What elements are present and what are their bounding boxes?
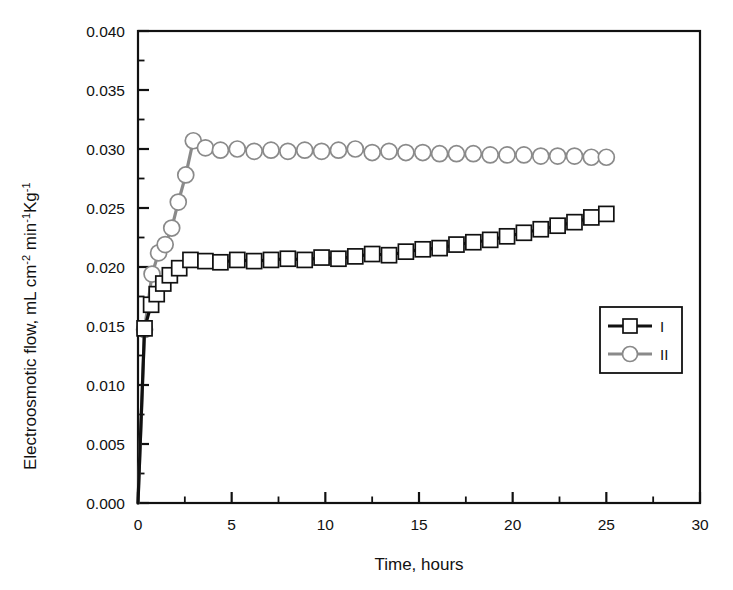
y-tick-label: 0.020: [86, 259, 125, 276]
data-point-marker: [516, 225, 531, 240]
data-point-marker: [330, 142, 346, 158]
data-point-marker: [448, 146, 464, 162]
data-point-marker: [415, 242, 430, 257]
data-point-marker: [566, 148, 582, 164]
data-point-marker: [599, 206, 614, 221]
data-point-marker: [398, 145, 414, 161]
data-point-marker: [482, 147, 498, 163]
legend-box: [600, 307, 682, 373]
data-point-marker: [157, 237, 173, 253]
data-point-marker: [197, 140, 213, 156]
y-tick-label: 0.030: [86, 141, 125, 158]
chart-legend: III: [600, 307, 682, 373]
data-point-marker: [198, 254, 213, 269]
data-point-marker: [500, 229, 515, 244]
y-tick-label: 0.025: [86, 200, 125, 217]
data-point-marker: [297, 142, 313, 158]
data-point-marker: [280, 143, 296, 159]
x-tick-label: 15: [410, 516, 427, 533]
legend-marker-II: [623, 347, 638, 362]
y-axis-title-sup3: -1: [20, 182, 32, 192]
data-point-marker: [381, 143, 397, 159]
data-point-marker: [331, 251, 346, 266]
y-tick-label: 0.035: [86, 82, 125, 99]
y-axis-title-base3: Kg: [21, 192, 40, 213]
data-point-marker: [364, 145, 380, 161]
data-point-marker: [280, 251, 295, 266]
data-point-marker: [584, 210, 599, 225]
data-point-marker: [297, 252, 312, 267]
data-point-marker: [398, 244, 413, 259]
data-point-marker: [567, 215, 582, 230]
data-point-marker: [178, 167, 194, 183]
legend-label-II: II: [660, 346, 668, 363]
data-point-marker: [465, 146, 481, 162]
data-point-marker: [170, 194, 186, 210]
data-point-marker: [137, 321, 152, 336]
legend-marker-I: [623, 319, 637, 333]
x-tick-label: 20: [504, 516, 522, 533]
data-point-marker: [432, 146, 448, 162]
y-axis-title: Electroosmotic flow, mL cm-2 min-1Kg-1: [20, 182, 40, 470]
y-tick-label: 0.000: [86, 495, 125, 512]
x-tick-label: 5: [227, 516, 236, 533]
data-point-marker: [499, 147, 515, 163]
y-axis-title-text: Electroosmotic flow, mL cm-2 min-1Kg-1: [20, 182, 40, 470]
data-point-marker: [230, 252, 245, 267]
data-point-marker: [314, 143, 330, 159]
y-axis-title-base2: min: [21, 223, 40, 255]
data-point-marker: [449, 237, 464, 252]
data-point-marker: [533, 222, 548, 237]
data-point-marker: [263, 142, 279, 158]
x-tick-label: 10: [317, 516, 335, 533]
data-point-marker: [229, 141, 245, 157]
y-tick-label: 0.005: [86, 436, 125, 453]
data-point-marker: [415, 145, 431, 161]
electroosmotic-flow-line-chart: Electroosmotic flow, mL cm-2 min-1Kg-1 0…: [0, 0, 733, 590]
data-point-marker: [365, 247, 380, 262]
y-axis-title-sup1: -2: [20, 255, 32, 265]
data-point-marker: [247, 254, 262, 269]
data-point-marker: [164, 220, 180, 236]
data-point-marker: [348, 249, 363, 264]
data-point-marker: [314, 250, 329, 265]
data-point-marker: [246, 143, 262, 159]
x-tick-label: 0: [134, 516, 143, 533]
y-tick-label: 0.040: [86, 23, 125, 40]
chart-figure: Electroosmotic flow, mL cm-2 min-1Kg-1 0…: [0, 0, 733, 590]
data-point-marker: [550, 218, 565, 233]
data-point-marker: [264, 252, 279, 267]
data-point-marker: [598, 149, 614, 165]
y-tick-label: 0.010: [86, 377, 125, 394]
legend-label-I: I: [660, 318, 664, 335]
data-point-marker: [533, 148, 549, 164]
data-point-marker: [183, 252, 198, 267]
data-point-marker: [516, 147, 532, 163]
x-tick-label: 25: [598, 516, 615, 533]
data-point-marker: [382, 248, 397, 263]
x-axis-title: Time, hours: [374, 555, 463, 574]
data-point-marker: [213, 255, 228, 270]
y-axis-title-sup2: -1: [20, 213, 32, 223]
data-point-marker: [466, 235, 481, 250]
data-point-marker: [432, 241, 447, 256]
data-point-marker: [347, 141, 363, 157]
x-tick-label: 30: [691, 516, 709, 533]
data-point-marker: [583, 149, 599, 165]
y-tick-label: 0.015: [86, 318, 125, 335]
y-axis-tick-labels: 0.0000.0050.0100.0150.0200.0250.0300.035…: [86, 23, 125, 512]
data-point-marker: [212, 142, 228, 158]
data-point-marker: [550, 148, 566, 164]
data-point-marker: [483, 232, 498, 247]
y-axis-title-base1: Electroosmotic flow, mL cm: [21, 265, 40, 470]
